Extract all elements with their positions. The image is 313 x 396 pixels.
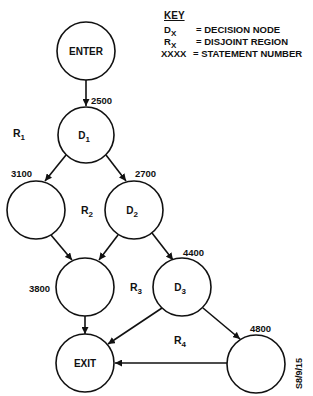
edge-d3-exit [108,308,162,344]
legend-desc-decision: = DECISION NODE [196,24,280,35]
node-enter: ENTER [57,22,115,80]
legend-desc-region: = DISJOINT REGION [196,36,288,47]
node-3800: 3800 [29,258,114,316]
node-d3: D3 4400 [153,247,211,316]
node-d2: D2 2700 [105,168,163,239]
region-r1-label: R1 [13,127,26,142]
edge-d3-4800 [203,308,240,339]
figure-id: S8/9/15 [294,358,304,389]
statement-number-3100: 3100 [11,168,32,179]
statement-number-2500: 2500 [91,95,112,106]
region-r2-label: R2 [81,204,94,219]
node-enter-label: ENTER [69,46,104,57]
statement-number-2700: 2700 [135,168,156,179]
legend-title: KEY [164,10,185,21]
statement-number-4400: 4400 [183,247,204,258]
region-r4-label: R4 [174,334,187,349]
edge-d1-d2 [106,155,126,181]
legend: KEY DX = DECISION NODE RX = DISJOINT REG… [161,10,302,59]
edge-d2-3800 [99,235,118,260]
statement-number-3800: 3800 [29,283,50,294]
edge-3100-3800 [51,235,72,260]
legend-desc-statement: = STATEMENT NUMBER [193,48,302,59]
legend-symbol-statement: XXXX [161,48,187,59]
node-4800: 4800 [227,323,285,393]
edge-d2-d3 [152,233,173,260]
node-exit-label: EXIT [74,358,96,369]
control-flow-graph: KEY DX = DECISION NODE RX = DISJOINT REG… [0,0,313,396]
node-3100: 3100 [7,168,65,239]
edge-d1-3100 [45,155,66,181]
node-exit: EXIT [56,334,114,392]
region-r3-label: R3 [130,281,143,296]
statement-number-4800: 4800 [250,323,271,334]
